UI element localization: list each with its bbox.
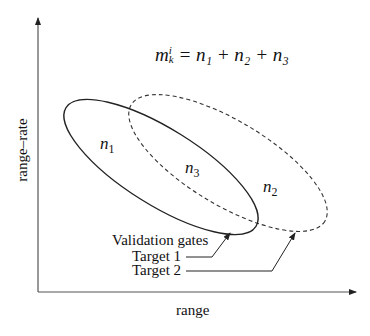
validation-gates-diagram: mik = n₁ + n₂ + n₃ n1 n3 n2 Validation g… (0, 0, 370, 336)
region-label-n1: n1 (100, 134, 114, 157)
equation: mik = n₁ + n₂ + n₃ (155, 44, 289, 66)
equation-subscript: k (169, 55, 174, 64)
region-label-n2: n2 (263, 177, 277, 200)
y-axis-label: range–rate (14, 118, 31, 181)
equation-rhs: = n₁ + n₂ + n₃ (174, 44, 289, 65)
equation-lhs: m (155, 44, 169, 65)
legend-title: Validation gates (112, 232, 208, 249)
target-2-validation-gate (110, 69, 347, 257)
legend-item-target-2: Target 2 (132, 262, 181, 279)
region-label-n3: n3 (185, 158, 199, 181)
x-axis-label: range (176, 302, 209, 319)
